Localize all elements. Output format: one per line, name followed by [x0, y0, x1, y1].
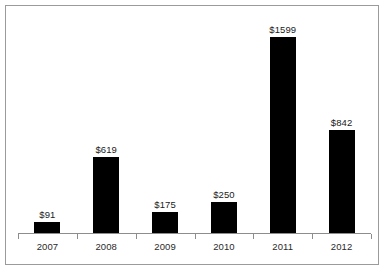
- bars-layer: $91$619$175$250$1599$842: [6, 6, 380, 233]
- bar-2007[interactable]: [34, 222, 60, 233]
- category-label-2007: 2007: [18, 240, 77, 253]
- x-axis-tick: [136, 234, 137, 239]
- bar-2012[interactable]: [329, 130, 355, 233]
- bar-group: $250: [195, 6, 254, 233]
- plot-area: $91$619$175$250$1599$842 200720082009201…: [6, 6, 380, 266]
- x-axis-tick: [77, 234, 78, 239]
- category-label-2010: 2010: [195, 240, 254, 253]
- category-label-2009: 2009: [136, 240, 195, 253]
- bar-group: $1599: [253, 6, 312, 233]
- x-axis-tick: [18, 234, 19, 239]
- bar-group: $175: [136, 6, 195, 233]
- bar-value-label-2012: $842: [331, 117, 353, 128]
- bar-group: $842: [312, 6, 371, 233]
- x-axis-tick: [195, 234, 196, 239]
- bar-group: $619: [77, 6, 136, 233]
- x-axis-tick: [371, 234, 372, 239]
- bar-2011[interactable]: [270, 37, 296, 233]
- category-label-2012: 2012: [312, 240, 371, 253]
- x-axis-tick: [312, 234, 313, 239]
- bar-2009[interactable]: [152, 212, 178, 233]
- category-label-2011: 2011: [253, 240, 312, 253]
- bar-value-label-2009: $175: [154, 199, 176, 210]
- bar-value-label-2011: $1599: [269, 24, 296, 35]
- x-axis-tick: [253, 234, 254, 239]
- category-label-2008: 2008: [77, 240, 136, 253]
- bar-group: $91: [18, 6, 77, 233]
- bar-value-label-2010: $250: [213, 189, 235, 200]
- bar-value-label-2007: $91: [39, 209, 55, 220]
- x-axis-category-labels: 200720082009201020112012: [6, 240, 380, 256]
- chart-frame-border: $91$619$175$250$1599$842 200720082009201…: [5, 5, 379, 265]
- bar-2008[interactable]: [93, 157, 119, 233]
- bar-value-label-2008: $619: [95, 144, 117, 155]
- bar-2010[interactable]: [211, 202, 237, 233]
- bar-chart-figure: $91$619$175$250$1599$842 200720082009201…: [0, 0, 385, 271]
